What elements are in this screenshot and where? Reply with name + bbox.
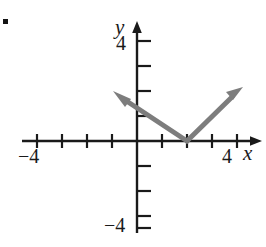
x-axis-tick-label-4: 4 [222,146,232,166]
x-axis-title: x [243,143,252,164]
y-axis-tick-label-negative-4: −4 [104,215,125,235]
coordinate-plane-plot [0,0,266,247]
y-axis-ticks [137,41,151,228]
graph-figure: y x 4 −4 −4 4 [0,0,266,247]
x-axis-tick-label-negative-4: −4 [18,146,39,166]
y-axis-tick-label-4: 4 [116,33,126,53]
y-axis [132,21,142,233]
absolute-value-curve [113,87,243,141]
